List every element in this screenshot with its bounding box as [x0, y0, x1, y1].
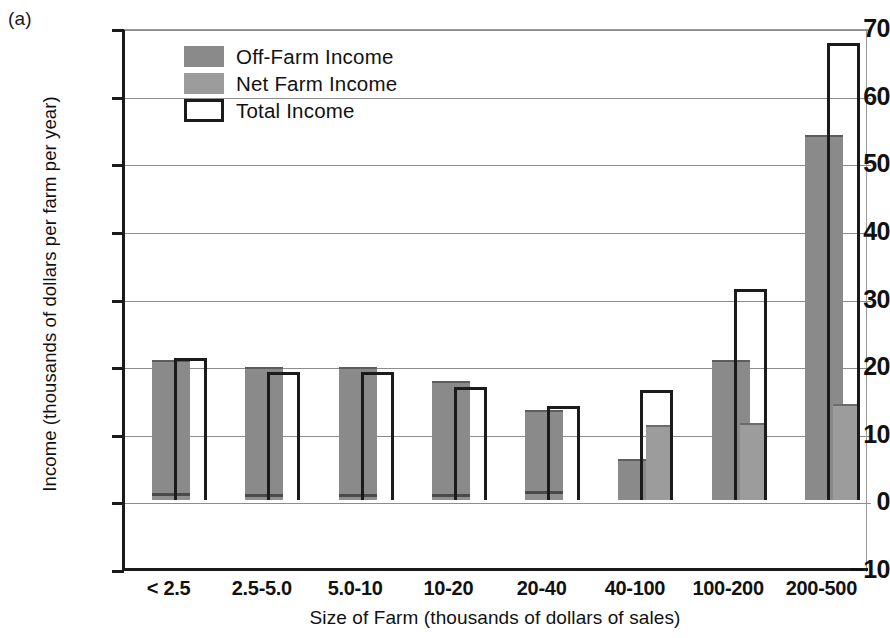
x-axis-tick-label: < 2.5: [122, 577, 215, 600]
legend-label-net-farm: Net Farm Income: [236, 72, 397, 96]
bar-total-income: [547, 406, 580, 500]
y-axis-tick: [112, 570, 124, 573]
x-axis-tick-label: 100-200: [682, 577, 775, 600]
y-axis-tick: [112, 164, 124, 167]
y-axis-tick-label: 50: [772, 149, 890, 178]
legend: Off-Farm Income Net Farm Income Total In…: [184, 44, 397, 125]
panel-label: (a): [8, 8, 32, 30]
y-axis-tick-label: 0: [772, 487, 890, 516]
y-axis-tick-label: 70: [772, 14, 890, 43]
x-axis-tick-label: 5.0-10: [309, 577, 402, 600]
y-axis-tick: [112, 502, 124, 505]
bar-total-income: [640, 390, 673, 500]
bar-total-income: [267, 372, 300, 500]
legend-item-off-farm: Off-Farm Income: [184, 44, 397, 69]
y-axis-tick: [112, 29, 124, 32]
y-axis-tick-label: 20: [772, 352, 890, 381]
figure-panel: (a) Income (thousands of dollars per far…: [0, 0, 890, 638]
y-axis-tick-label: 10: [772, 420, 890, 449]
gridline: [125, 30, 871, 31]
x-axis-tick-label: 40-100: [588, 577, 681, 600]
legend-item-net-farm: Net Farm Income: [184, 71, 397, 96]
legend-item-total: Total Income: [184, 98, 397, 123]
gridline: [125, 503, 871, 504]
total-income-swatch: [184, 99, 224, 122]
y-axis-tick-label: 30: [772, 285, 890, 314]
y-axis-tick-label: 60: [772, 82, 890, 111]
y-axis-title: Income (thousands of dollars per farm pe…: [39, 59, 61, 529]
y-axis-tick: [112, 367, 124, 370]
x-axis-tick-label: 200-500: [775, 577, 868, 600]
off-farm-swatch: [184, 46, 224, 67]
y-axis-tick: [112, 300, 124, 303]
x-axis-tick-label: 20-40: [495, 577, 588, 600]
x-axis-tick-label: 10-20: [402, 577, 495, 600]
y-axis-tick-label: 40: [772, 217, 890, 246]
y-axis-tick: [112, 232, 124, 235]
y-axis-tick: [112, 435, 124, 438]
net-farm-swatch: [184, 73, 224, 94]
gridline: [125, 165, 871, 166]
bar-total-income: [361, 372, 394, 500]
bar-total-income: [174, 358, 207, 500]
bar-total-income: [454, 387, 487, 501]
x-axis-title: Size of Farm (thousands of dollars of sa…: [122, 607, 868, 629]
legend-label-total: Total Income: [236, 99, 355, 123]
gridline: [125, 233, 871, 234]
bar-total-income: [734, 289, 767, 501]
legend-label-off-farm: Off-Farm Income: [236, 45, 394, 69]
x-axis-tick-label: 2.5-5.0: [215, 577, 308, 600]
y-axis-tick: [112, 97, 124, 100]
